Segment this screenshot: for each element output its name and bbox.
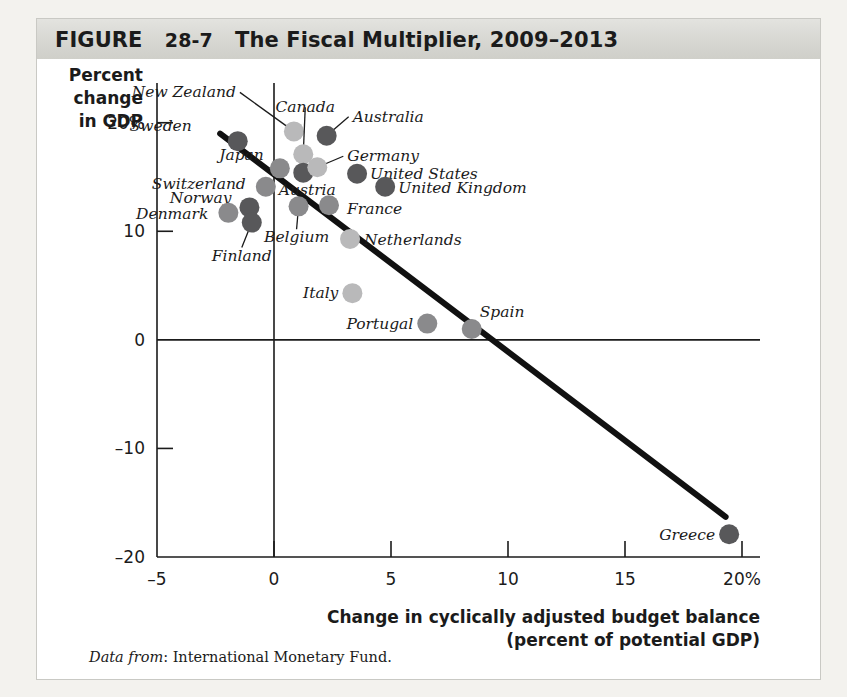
point-label-portugal: Portugal xyxy=(345,315,413,333)
point-label-japan: Japan xyxy=(216,146,264,164)
data-point-italy[interactable] xyxy=(342,283,362,303)
y-tick-label-10: 10 xyxy=(123,221,145,241)
figure-title-bar: FIGURE 28-7 The Fiscal Multiplier, 2009–… xyxy=(37,19,820,60)
figure-number: 28-7 xyxy=(165,29,213,51)
point-label-belgium: Belgium xyxy=(263,228,329,246)
source-note: Data from: International Monetary Fund. xyxy=(89,649,392,665)
marker-japan[interactable] xyxy=(270,158,290,178)
figure-container: FIGURE 28-7 The Fiscal Multiplier, 2009–… xyxy=(0,0,847,697)
marker-united-kingdom[interactable] xyxy=(375,177,395,197)
x-tick-label-15: 15 xyxy=(614,569,636,589)
point-label-france: France xyxy=(346,200,402,218)
data-point-greece[interactable] xyxy=(719,524,739,544)
marker-new-zealand[interactable] xyxy=(284,121,304,141)
x-tick-label-5: 5 xyxy=(386,569,397,589)
data-point-new-zealand[interactable] xyxy=(284,121,304,141)
data-point-france[interactable] xyxy=(319,195,339,215)
marker-portugal[interactable] xyxy=(417,314,437,334)
y-axis-title-line-1: Percent xyxy=(69,65,143,85)
scatter-chart: 20%100–10–20–505101520%SwedenNew Zealand… xyxy=(37,59,820,678)
y-tick-label--20: –20 xyxy=(115,547,145,567)
figure-label: FIGURE xyxy=(55,28,143,52)
x-tick-label-10: 10 xyxy=(497,569,519,589)
data-point-switzerland[interactable] xyxy=(256,177,276,197)
point-label-united-kingdom: United Kingdom xyxy=(398,179,527,197)
data-point-united-kingdom[interactable] xyxy=(375,177,395,197)
data-point-united-states[interactable] xyxy=(347,164,367,184)
y-axis-title-line-3: in GDP xyxy=(79,111,143,131)
figure-title-text: The Fiscal Multiplier, 2009–2013 xyxy=(235,28,618,52)
data-point-finland[interactable] xyxy=(242,213,262,233)
point-label-canada: Canada xyxy=(276,98,336,116)
data-point-belgium[interactable] xyxy=(289,196,309,216)
x-axis-title-line-1: Change in cyclically adjusted budget bal… xyxy=(327,607,760,627)
marker-greece[interactable] xyxy=(719,524,739,544)
data-point-netherlands[interactable] xyxy=(340,229,360,249)
x-tick-label--5: –5 xyxy=(147,569,166,589)
marker-united-states[interactable] xyxy=(347,164,367,184)
marker-netherlands[interactable] xyxy=(340,229,360,249)
source-text: : International Monetary Fund. xyxy=(163,649,392,665)
point-label-netherlands: Netherlands xyxy=(363,231,462,249)
data-point-japan[interactable] xyxy=(270,158,290,178)
data-point-germany[interactable] xyxy=(307,157,327,177)
point-label-germany: Germany xyxy=(347,147,419,165)
plot-area: 20%100–10–20–505101520%SwedenNew Zealand… xyxy=(37,59,820,678)
x-tick-label-0: 0 xyxy=(269,569,280,589)
data-point-spain[interactable] xyxy=(462,319,482,339)
point-label-finland: Finland xyxy=(211,247,272,265)
figure-card: FIGURE 28-7 The Fiscal Multiplier, 2009–… xyxy=(36,18,821,680)
y-tick-label--10: –10 xyxy=(115,438,145,458)
source-prefix: Data from xyxy=(89,649,163,665)
marker-spain[interactable] xyxy=(462,319,482,339)
x-axis-title-line-2: (percent of potential GDP) xyxy=(506,630,760,650)
marker-switzerland[interactable] xyxy=(256,177,276,197)
x-tick-label-20: 20% xyxy=(723,569,761,589)
point-label-greece: Greece xyxy=(659,526,715,544)
y-tick-label-0: 0 xyxy=(134,330,145,350)
data-point-australia[interactable] xyxy=(317,126,337,146)
marker-finland[interactable] xyxy=(242,213,262,233)
figure-title: FIGURE 28-7 The Fiscal Multiplier, 2009–… xyxy=(55,28,618,52)
marker-france[interactable] xyxy=(319,195,339,215)
point-label-spain: Spain xyxy=(480,303,525,321)
marker-denmark[interactable] xyxy=(218,203,238,223)
point-label-australia: Australia xyxy=(351,108,424,126)
marker-belgium[interactable] xyxy=(289,196,309,216)
data-point-denmark[interactable] xyxy=(218,203,238,223)
point-label-italy: Italy xyxy=(302,284,339,302)
marker-australia[interactable] xyxy=(317,126,337,146)
marker-italy[interactable] xyxy=(342,283,362,303)
point-label-denmark: Denmark xyxy=(135,205,208,223)
point-label-new-zealand: New Zealand xyxy=(131,83,236,101)
data-point-portugal[interactable] xyxy=(417,314,437,334)
marker-germany[interactable] xyxy=(307,157,327,177)
y-axis-title-line-2: change xyxy=(74,88,143,108)
